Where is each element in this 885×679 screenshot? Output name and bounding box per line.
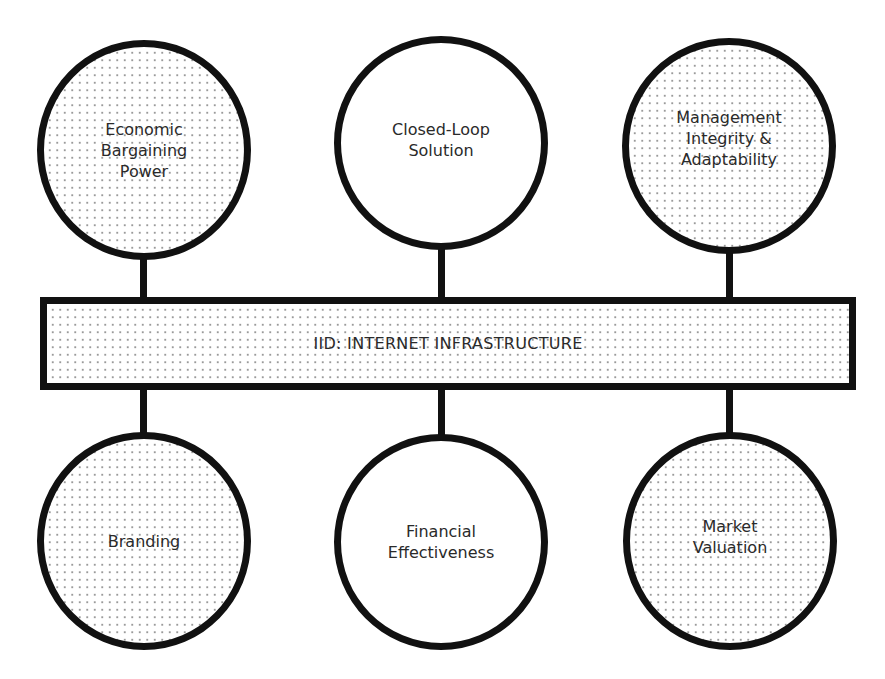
connector-bottom-center — [438, 386, 445, 438]
node-economic-bargaining-power: Economic Bargaining Power — [37, 40, 251, 260]
node-management-integrity-adaptability: Management Integrity & Adaptability — [622, 38, 836, 254]
connector-top-right — [726, 248, 733, 302]
node-market-valuation: Market Valuation — [623, 432, 837, 650]
center-bar-label: IID: INTERNET INFRASTRUCTURE — [313, 334, 582, 353]
node-label: Branding — [105, 529, 183, 554]
node-label: Financial Effectiveness — [385, 519, 497, 565]
node-branding: Branding — [37, 432, 251, 650]
node-closed-loop-solution: Closed-Loop Solution — [334, 36, 548, 250]
connector-top-left — [140, 254, 147, 302]
node-label: Management Integrity & Adaptability — [673, 105, 784, 172]
node-label: Market Valuation — [690, 514, 771, 560]
connector-bottom-right — [726, 386, 733, 436]
node-label: Economic Bargaining Power — [98, 117, 190, 184]
connector-bottom-left — [140, 386, 147, 436]
center-bar-internet-infrastructure: IID: INTERNET INFRASTRUCTURE — [40, 297, 856, 390]
node-financial-effectiveness: Financial Effectiveness — [334, 434, 548, 650]
node-label: Closed-Loop Solution — [389, 117, 493, 163]
connector-top-center — [438, 244, 445, 302]
